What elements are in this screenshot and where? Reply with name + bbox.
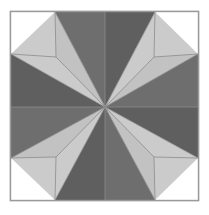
quilt-block-canvas (0, 0, 209, 215)
quilt-block-figure (0, 0, 209, 215)
